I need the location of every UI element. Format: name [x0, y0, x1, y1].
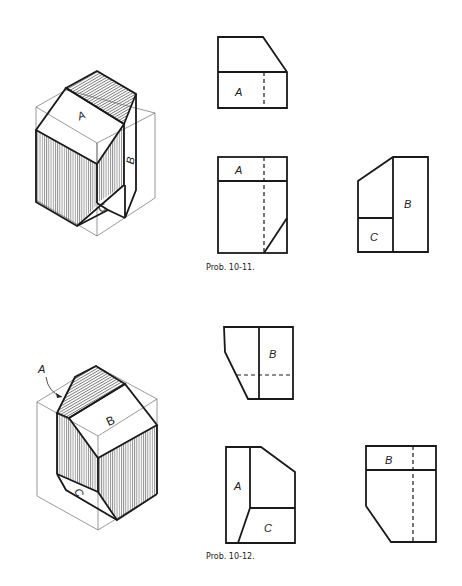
front-view-10-12: A C: [226, 447, 295, 543]
side-view-label-b: B: [404, 198, 411, 210]
arrow-head-icon: [56, 393, 62, 398]
face-label-c: C: [72, 486, 86, 499]
isometric-view-10-11: A B C: [36, 71, 155, 236]
face-label-c: C: [95, 200, 108, 214]
left-face: [36, 130, 97, 226]
side-view-label-c: C: [370, 231, 378, 243]
drawing-sheet: A B C A A B C Prob. 10-11.: [0, 0, 462, 586]
top-view-10-12: B: [224, 327, 293, 399]
caption-10-11: Prob. 10-11.: [206, 263, 255, 272]
top-view-label: A: [234, 86, 242, 98]
front-view-label-c: C: [264, 522, 272, 534]
problem-10-11: A B C A A B C Prob. 10-11.: [36, 37, 428, 272]
isometric-view-10-12: A B C: [37, 363, 157, 530]
top-view-label: B: [269, 348, 276, 360]
leader-arrow: [46, 377, 62, 397]
side-view-label: B: [385, 454, 392, 466]
side-view-10-12: B: [366, 446, 436, 542]
front-view-label: A: [234, 164, 242, 176]
side-view-10-11: B C: [358, 157, 428, 252]
face-label-b: B: [124, 156, 137, 165]
front-view-label-a: A: [233, 480, 241, 492]
face-label-a: A: [74, 108, 87, 122]
face-label-b: B: [104, 413, 117, 429]
top-view-10-11: A: [218, 37, 287, 108]
face-label-a: A: [37, 363, 45, 375]
front-view-10-11: A: [218, 157, 287, 253]
caption-10-12: Prob. 10-12.: [206, 552, 255, 561]
problem-10-12: A B C B A C B Prob. 10: [37, 327, 436, 561]
